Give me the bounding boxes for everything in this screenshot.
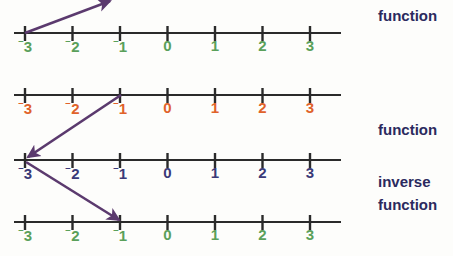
diagram-canvas: ⁻3 ⁻2 ⁻1 0 1 2 3 ⁻3 ⁻2 ⁻1 0 1 2 3 ⁻3 ⁻2 … (0, 0, 453, 256)
tick-label: 3 (306, 100, 314, 115)
tick-label: ⁻3 (18, 165, 32, 181)
number-line-4 (14, 215, 341, 230)
tick-label: 2 (258, 38, 266, 53)
tick-label: 3 (306, 227, 314, 242)
tick-label: ⁻3 (18, 227, 32, 243)
tick-label: 1 (211, 165, 219, 180)
tick-label: ⁻1 (113, 165, 127, 181)
tick-label: 3 (306, 38, 314, 53)
number-line-1 (14, 26, 341, 41)
tick-label: ⁻1 (113, 227, 127, 243)
side-label-function-middle: function (378, 122, 437, 137)
tick-label: ⁻2 (65, 227, 79, 243)
side-label-function-bottom: function (378, 197, 437, 212)
tick-label: ⁻2 (65, 165, 79, 181)
tick-label: 1 (211, 100, 219, 115)
tick-label: 3 (306, 165, 314, 180)
tick-label: 2 (258, 100, 266, 115)
number-line-3 (14, 153, 341, 168)
tick-label: ⁻3 (18, 38, 32, 54)
tick-label: ⁻2 (65, 38, 79, 54)
number-line-2 (14, 88, 341, 103)
tick-label: ⁻1 (113, 38, 127, 54)
tick-label: ⁻2 (65, 100, 79, 116)
tick-label: ⁻3 (18, 100, 32, 116)
tick-label: 0 (163, 38, 171, 53)
tick-label: 2 (258, 165, 266, 180)
tick-label: 1 (211, 38, 219, 53)
tick-label: 1 (211, 227, 219, 242)
tick-label: 0 (163, 227, 171, 242)
tick-label: 0 (163, 100, 171, 115)
side-label-inverse: inverse (378, 174, 431, 189)
tick-label: ⁻1 (113, 100, 127, 116)
side-label-function-top: function (378, 8, 437, 23)
tick-label: 0 (163, 165, 171, 180)
mapping-arrow-1 (25, 1, 110, 33)
tick-label: 2 (258, 227, 266, 242)
